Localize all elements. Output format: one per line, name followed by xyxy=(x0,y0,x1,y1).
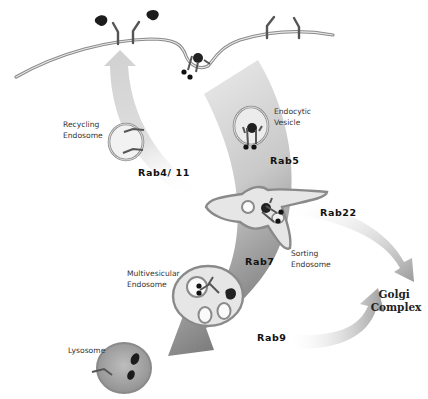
plasma-membrane xyxy=(16,32,333,77)
sorting-endosome-label: Sorting Endosome xyxy=(291,249,331,269)
rab9-label: Rab9 xyxy=(257,332,287,343)
golgi-complex-label: Golgi Complex xyxy=(371,288,422,313)
rab7-label: Rab7 xyxy=(245,256,275,267)
recycling-endosome xyxy=(109,124,144,160)
rab4-11-label: Rab4/ 11 xyxy=(138,167,190,178)
rab5-label: Rab5 xyxy=(270,155,300,166)
rab9-arrow xyxy=(286,288,384,349)
rab22-label: Rab22 xyxy=(320,207,357,218)
multivesicular-endosome xyxy=(173,266,243,326)
free-ligands xyxy=(95,10,159,26)
lysosome-label: Lysosome xyxy=(68,346,106,355)
recycling-endosome-label: Recycling Endosome xyxy=(63,120,103,140)
endocytosis-diagram: Recycling Endosome Endocytic Vesicle Sor… xyxy=(0,0,428,399)
